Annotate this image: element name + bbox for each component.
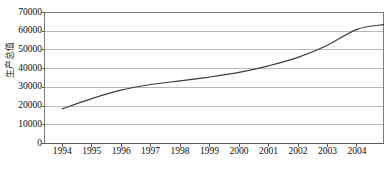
chart-figure: 生产总值 01000020000300004000050000600007000… [0, 0, 391, 173]
plot-background [45, 13, 384, 144]
plot-area [0, 0, 391, 173]
